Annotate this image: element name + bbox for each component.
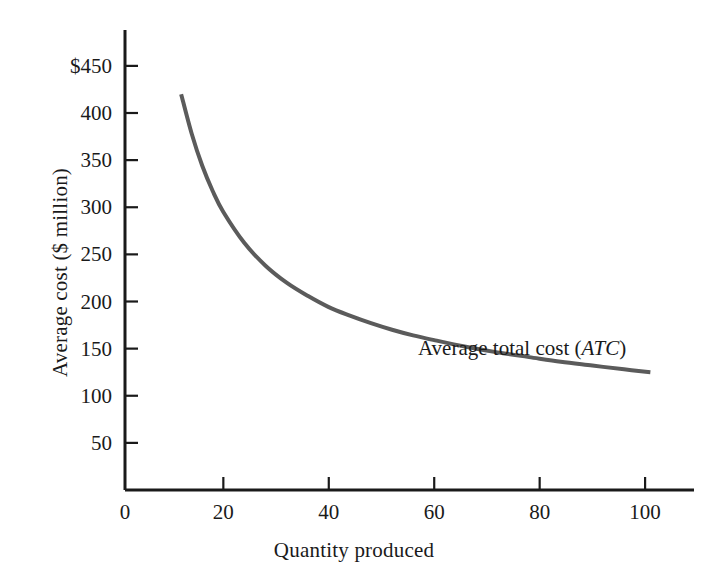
x-axis-tick-label: 100	[629, 500, 661, 525]
series-annotation-prefix: Average total cost (	[418, 336, 581, 360]
y-axis-title: Average cost ($ million)	[48, 63, 73, 483]
x-axis-ticks	[223, 477, 645, 490]
chart-series-group	[181, 94, 650, 372]
series-line-atc	[181, 94, 650, 372]
origin-tick-label: 0	[120, 500, 131, 525]
series-annotation-atc: Average total cost (ATC)	[418, 336, 626, 361]
y-axis-ticks	[125, 66, 138, 443]
chart-axes	[125, 30, 694, 490]
x-axis-tick-label: 20	[213, 500, 234, 525]
x-axis-tick-label: 40	[318, 500, 339, 525]
x-axis-title: Quantity produced	[0, 538, 708, 563]
x-axis-tick-label: 60	[424, 500, 445, 525]
series-annotation-symbol: ATC	[581, 336, 619, 360]
x-axis-tick-label: 80	[529, 500, 550, 525]
series-annotation-suffix: )	[619, 336, 626, 360]
chart-figure: 50100150200250300350400$450 20406080100 …	[0, 0, 708, 585]
